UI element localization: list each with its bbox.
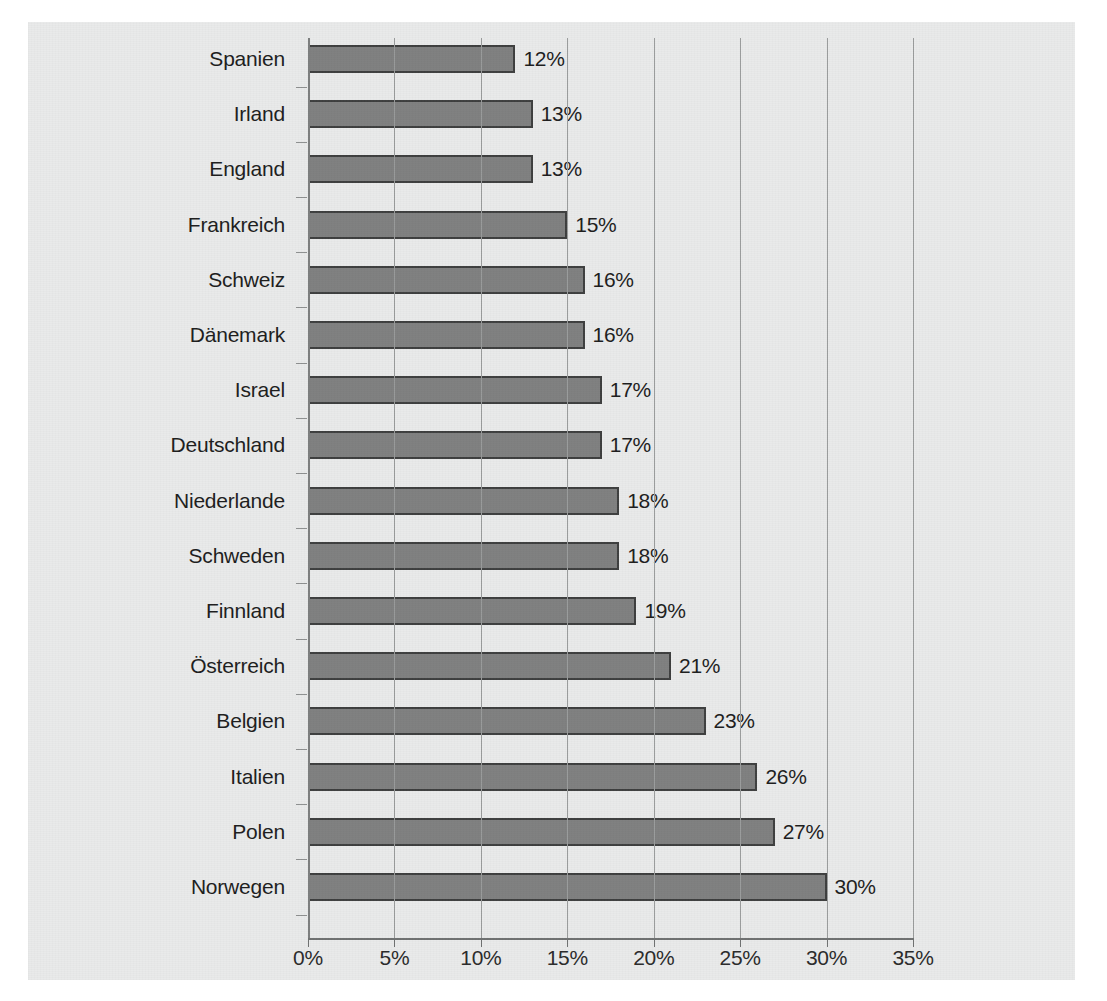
y-axis-tick [296, 749, 307, 750]
x-axis-tick-label: 30% [806, 946, 847, 970]
plot-area [308, 38, 913, 938]
y-axis-category-label: Italien [35, 763, 285, 791]
y-axis-tick [296, 87, 307, 88]
y-axis-tick [296, 915, 307, 916]
gridline-5 [394, 38, 395, 938]
y-axis-tick [296, 142, 307, 143]
y-axis-category-label: Irland [35, 100, 285, 128]
x-axis-tick-label: 5% [380, 946, 410, 970]
y-axis-category-label: Deutschland [35, 431, 285, 459]
y-axis-tick [296, 363, 307, 364]
y-axis-category-label: Polen [35, 818, 285, 846]
x-axis-tick-label: 20% [633, 946, 674, 970]
chart-page: Spanien12%Irland13%England13%Frankreich1… [0, 0, 1107, 1001]
y-axis-category-label: Schweiz [35, 266, 285, 294]
y-axis-category-label: Norwegen [35, 873, 285, 901]
x-axis-tick-label: 35% [892, 946, 933, 970]
y-axis-category-label: Spanien [35, 45, 285, 73]
gridline-25 [740, 38, 741, 938]
gridline-15 [567, 38, 568, 938]
gridline-20 [654, 38, 655, 938]
y-axis-tick [296, 804, 307, 805]
x-axis-tick-label: 15% [547, 946, 588, 970]
y-axis-tick [296, 307, 307, 308]
y-axis-category-label: Dänemark [35, 321, 285, 349]
y-axis-tick [296, 252, 307, 253]
x-axis-tick-label: 10% [460, 946, 501, 970]
y-axis-tick [296, 418, 307, 419]
gridline-0 [308, 38, 310, 938]
y-axis-category-label: Schweden [35, 542, 285, 570]
y-axis-tick [296, 528, 307, 529]
y-axis-category-label: Israel [35, 376, 285, 404]
y-axis-category-label: Niederlande [35, 487, 285, 515]
y-axis-tick [296, 583, 307, 584]
gridline-30 [827, 38, 828, 938]
y-axis-category-label: Österreich [35, 652, 285, 680]
y-axis-tick [296, 473, 307, 474]
y-axis-category-label: Belgien [35, 707, 285, 735]
y-axis-category-label: Finnland [35, 597, 285, 625]
y-axis-tick [296, 859, 307, 860]
x-axis-tick-label: 25% [720, 946, 761, 970]
y-axis-tick [296, 197, 307, 198]
y-axis-tick [296, 639, 307, 640]
gridline-35 [913, 38, 914, 938]
gridline-10 [481, 38, 482, 938]
chart-panel: Spanien12%Irland13%England13%Frankreich1… [28, 22, 1075, 980]
y-axis-category-label: England [35, 155, 285, 183]
x-axis-line [308, 938, 914, 940]
y-axis-category-label: Frankreich [35, 211, 285, 239]
y-axis-tick [296, 694, 307, 695]
x-axis-tick-label: 0% [293, 946, 323, 970]
